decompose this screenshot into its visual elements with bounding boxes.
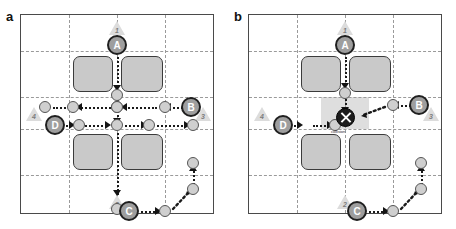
- agent-c[interactable]: C: [347, 201, 367, 221]
- waypoint: [415, 157, 427, 169]
- panel-a: 1 2 3 4: [20, 14, 214, 214]
- waypoint: [39, 101, 51, 113]
- panel-b: 1 2 3 4: [248, 14, 442, 214]
- waypoint: [111, 119, 123, 131]
- panel-label-a: a: [6, 10, 13, 23]
- agent-b[interactable]: B: [409, 95, 429, 115]
- agent-a[interactable]: A: [107, 35, 127, 55]
- waypoint: [415, 183, 427, 195]
- agent-a[interactable]: A: [335, 35, 355, 55]
- waypoint: [73, 119, 85, 131]
- collision-label: collision: [331, 129, 345, 134]
- agent-d[interactable]: D: [273, 115, 293, 135]
- waypoint: [187, 157, 199, 169]
- waypoint: [159, 205, 171, 217]
- waypoint: [339, 87, 351, 99]
- agent-b[interactable]: B: [181, 97, 201, 117]
- waypoint: [111, 89, 123, 101]
- waypoint: [387, 205, 399, 217]
- waypoint: [387, 99, 399, 111]
- agent-d[interactable]: D: [45, 115, 65, 135]
- waypoint: [143, 119, 155, 131]
- collision-icon: [336, 108, 355, 127]
- waypoint: [67, 101, 79, 113]
- waypoint: [159, 101, 171, 113]
- waypoint: [187, 183, 199, 195]
- waypoint: [187, 119, 199, 131]
- figure-root: a 1 2 3 4: [0, 0, 456, 229]
- panel-label-b: b: [234, 10, 242, 23]
- waypoint: [111, 101, 123, 113]
- agent-c[interactable]: C: [119, 201, 139, 221]
